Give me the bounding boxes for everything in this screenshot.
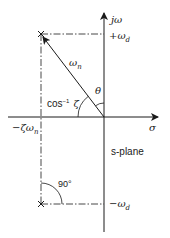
j-omega-axis-label: jω: [111, 15, 122, 25]
s-plane-diagram: [0, 0, 170, 238]
omega-text: ω: [117, 198, 125, 209]
subscript-n: n: [34, 128, 39, 136]
s-plane-label: s-plane: [111, 147, 144, 157]
j-omega-text: jω: [111, 14, 122, 25]
zeta-text: ζ: [73, 98, 78, 109]
right-angle-label: 90°: [58, 180, 72, 189]
minus-zeta-omega-n-label: −ζωn: [12, 123, 38, 133]
minus-omega-d-label: −ωd: [109, 199, 130, 209]
omega-n-label: ωn: [69, 58, 82, 68]
sigma-text: σ: [149, 122, 156, 133]
ninety-degrees-text: 90°: [58, 179, 72, 189]
plus-omega-d-label: +ωd: [109, 31, 130, 41]
theta-angle-arc: [96, 103, 105, 106]
theta-label: θ: [95, 86, 101, 96]
s-plane-text: s-plane: [111, 146, 144, 157]
subscript-n: n: [77, 63, 82, 71]
sigma-axis-label: σ: [149, 123, 156, 133]
omega-text: ω: [69, 57, 77, 68]
subscript-d: d: [126, 204, 130, 212]
arccos-zeta-label: cos−1 ζ: [47, 94, 79, 110]
superscript-minus-one: −1: [63, 98, 70, 104]
omega-text: ω: [117, 30, 125, 41]
cos-text: cos: [47, 98, 63, 109]
subscript-d: d: [126, 36, 130, 44]
zeta-omega-text: ζω: [20, 122, 34, 133]
zeta-angle-arc: [78, 96, 88, 117]
theta-text: θ: [95, 85, 101, 96]
